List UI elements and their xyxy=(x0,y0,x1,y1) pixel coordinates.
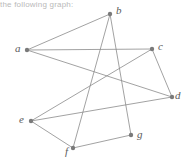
graph-node-label-b: b xyxy=(116,5,122,16)
graph-node-a xyxy=(25,48,29,52)
graph-drawing xyxy=(0,0,185,165)
graph-node-label-g: g xyxy=(137,129,143,140)
graph-node-label-f: f xyxy=(65,146,68,157)
graph-edge-bg xyxy=(110,14,131,135)
graph-node-label-c: c xyxy=(158,41,163,52)
graph-node-f xyxy=(71,146,75,150)
graph-edge-fg xyxy=(73,135,131,148)
node-layer xyxy=(25,12,174,150)
graph-node-c xyxy=(150,47,154,51)
graph-node-g xyxy=(129,133,133,137)
graph-edge-bf xyxy=(73,14,110,148)
graph-node-label-a: a xyxy=(15,43,21,54)
graph-node-e xyxy=(29,119,33,123)
graph-figure: the following graph: abcdefg xyxy=(0,0,185,165)
graph-node-b xyxy=(108,12,112,16)
graph-node-d xyxy=(170,95,174,99)
graph-edge-ac xyxy=(27,49,152,50)
edge-layer xyxy=(27,14,172,148)
graph-edge-ad xyxy=(27,50,172,97)
graph-node-label-e: e xyxy=(19,114,24,125)
graph-edge-ef xyxy=(31,121,73,148)
graph-edge-de xyxy=(31,97,172,121)
graph-edge-cd xyxy=(152,49,172,97)
graph-edge-ab xyxy=(27,14,110,50)
graph-node-label-d: d xyxy=(175,90,181,101)
